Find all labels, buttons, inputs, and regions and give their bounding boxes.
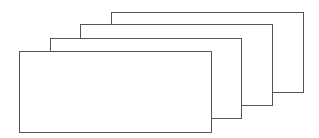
stacked-cards-diagram (0, 0, 319, 138)
card-front (19, 51, 212, 133)
